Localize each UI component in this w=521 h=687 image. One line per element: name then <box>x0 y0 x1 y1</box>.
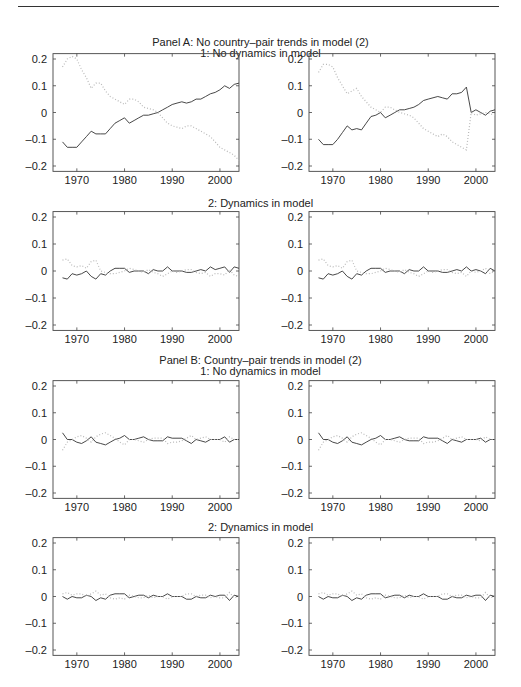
x-tick-label: 1990 <box>416 658 440 670</box>
series-dotted-line <box>63 56 240 160</box>
x-tick-label: 1990 <box>160 174 184 186</box>
y-tick-label: 0.2 <box>288 537 303 549</box>
y-tick-label: 0.1 <box>32 80 47 92</box>
series-dotted-line <box>319 591 496 599</box>
series-solid-line <box>63 83 240 147</box>
chart-A2-left: 0.20.10–0.1–0.21970198019902000 <box>26 211 239 345</box>
x-tick-label: 1970 <box>321 174 345 186</box>
y-tick-label: –0.2 <box>26 644 47 656</box>
x-tick-label: 2000 <box>464 174 488 186</box>
y-tick-label: 0.1 <box>288 238 303 250</box>
y-tick-label: –0.1 <box>26 460 47 472</box>
series-dotted-line <box>63 591 240 599</box>
x-tick-label: 1970 <box>321 333 345 345</box>
x-tick-label: 2000 <box>208 501 232 513</box>
x-tick-label: 2000 <box>464 501 488 513</box>
chart-B1-left: 0.20.10–0.1–0.21970198019902000 <box>26 380 239 513</box>
x-tick-label: 1990 <box>160 333 184 345</box>
series-dotted-line <box>63 433 240 450</box>
y-tick-label: –0.1 <box>26 617 47 629</box>
y-tick-label: –0.1 <box>282 133 303 145</box>
series-dotted-line <box>319 64 496 149</box>
y-tick-label: 0 <box>41 434 47 446</box>
y-tick-label: –0.1 <box>282 617 303 629</box>
y-tick-label: –0.2 <box>26 487 47 499</box>
y-tick-label: –0.2 <box>282 160 303 172</box>
x-tick-label: 1980 <box>368 501 392 513</box>
x-tick-label: 2000 <box>464 333 488 345</box>
x-tick-label: 2000 <box>208 658 232 670</box>
y-tick-label: –0.2 <box>282 487 303 499</box>
y-tick-label: 0.2 <box>288 380 303 392</box>
x-tick-label: 1980 <box>368 333 392 345</box>
series-solid-line <box>319 594 496 601</box>
y-tick-label: 0 <box>297 591 303 603</box>
series-dotted-line <box>319 433 496 450</box>
chart-A2-right: 0.20.10–0.1–0.21970198019902000 <box>282 211 495 345</box>
x-tick-label: 1970 <box>65 501 89 513</box>
series-solid-line <box>319 433 496 445</box>
y-tick-label: –0.1 <box>26 133 47 145</box>
y-tick-label: –0.2 <box>26 319 47 331</box>
y-tick-label: –0.2 <box>282 644 303 656</box>
plot-frame <box>309 54 495 172</box>
x-tick-label: 2000 <box>464 658 488 670</box>
x-tick-label: 1980 <box>112 333 136 345</box>
y-tick-label: –0.2 <box>26 160 47 172</box>
y-tick-label: 0 <box>297 434 303 446</box>
x-tick-label: 1970 <box>65 658 89 670</box>
y-tick-label: 0 <box>41 591 47 603</box>
x-tick-label: 1990 <box>416 174 440 186</box>
x-tick-label: 1990 <box>160 658 184 670</box>
chart-grid: 0.20.10–0.1–0.219701980199020000.20.10–0… <box>0 0 521 687</box>
x-tick-label: 1980 <box>368 658 392 670</box>
x-tick-label: 1970 <box>65 174 89 186</box>
y-tick-label: 0.1 <box>288 407 303 419</box>
chart-A1-right: 0.20.10–0.1–0.21970198019902000 <box>282 53 495 186</box>
y-tick-label: 0 <box>297 265 303 277</box>
x-tick-label: 1980 <box>112 174 136 186</box>
chart-A1-left: 0.20.10–0.1–0.21970198019902000 <box>26 53 239 186</box>
y-tick-label: –0.1 <box>282 460 303 472</box>
plot-frame <box>53 212 239 331</box>
y-tick-label: –0.1 <box>26 292 47 304</box>
x-tick-label: 1990 <box>160 501 184 513</box>
y-tick-label: 0.2 <box>32 380 47 392</box>
series-solid-line <box>63 594 240 601</box>
chart-B2-right: 0.20.10–0.1–0.21970198019902000 <box>282 537 495 670</box>
y-tick-label: 0.2 <box>32 537 47 549</box>
x-tick-label: 1990 <box>416 333 440 345</box>
y-tick-label: –0.2 <box>282 319 303 331</box>
x-tick-label: 1980 <box>112 658 136 670</box>
x-tick-label: 1990 <box>416 501 440 513</box>
x-tick-label: 1980 <box>368 174 392 186</box>
x-tick-label: 1980 <box>112 501 136 513</box>
y-tick-label: 0.1 <box>32 564 47 576</box>
series-solid-line <box>319 267 496 279</box>
x-tick-label: 2000 <box>208 174 232 186</box>
series-solid-line <box>63 433 240 445</box>
chart-B2-left: 0.20.10–0.1–0.21970198019902000 <box>26 537 239 670</box>
y-tick-label: 0.1 <box>288 564 303 576</box>
y-tick-label: 0.1 <box>32 407 47 419</box>
y-tick-label: 0 <box>41 107 47 119</box>
plot-frame <box>53 54 239 172</box>
chart-B1-right: 0.20.10–0.1–0.21970198019902000 <box>282 380 495 513</box>
x-tick-label: 1970 <box>321 658 345 670</box>
x-tick-label: 2000 <box>208 333 232 345</box>
y-tick-label: 0 <box>41 265 47 277</box>
y-tick-label: 0.2 <box>288 211 303 223</box>
x-tick-label: 1970 <box>321 501 345 513</box>
x-tick-label: 1970 <box>65 333 89 345</box>
y-tick-label: 0.2 <box>288 53 303 65</box>
series-solid-line <box>63 267 240 279</box>
y-tick-label: 0.2 <box>32 53 47 65</box>
plot-frame <box>309 212 495 331</box>
y-tick-label: 0 <box>297 107 303 119</box>
y-tick-label: 0.1 <box>32 238 47 250</box>
y-tick-label: –0.1 <box>282 292 303 304</box>
y-tick-label: 0.1 <box>288 80 303 92</box>
y-tick-label: 0.2 <box>32 211 47 223</box>
